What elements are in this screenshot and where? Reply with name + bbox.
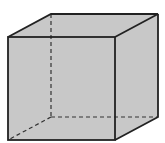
cube-fill [8,14,158,140]
cube-diagram [0,0,165,143]
